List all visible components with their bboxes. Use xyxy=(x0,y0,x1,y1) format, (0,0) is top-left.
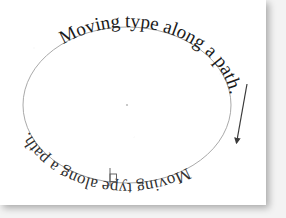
figure-scene: Moving type along a path. Moving type al… xyxy=(0,0,286,218)
path-text-flipped-label: Moving type along a path. xyxy=(16,130,194,198)
path-text-flipped: Moving type along a path. xyxy=(16,130,194,198)
path-text-upright: Moving type along a path. xyxy=(55,10,246,96)
path-text-upright-label: Moving type along a path. xyxy=(55,10,246,96)
type-on-path-figure: Moving type along a path. Moving type al… xyxy=(0,0,286,218)
path-center-dot xyxy=(126,104,128,106)
